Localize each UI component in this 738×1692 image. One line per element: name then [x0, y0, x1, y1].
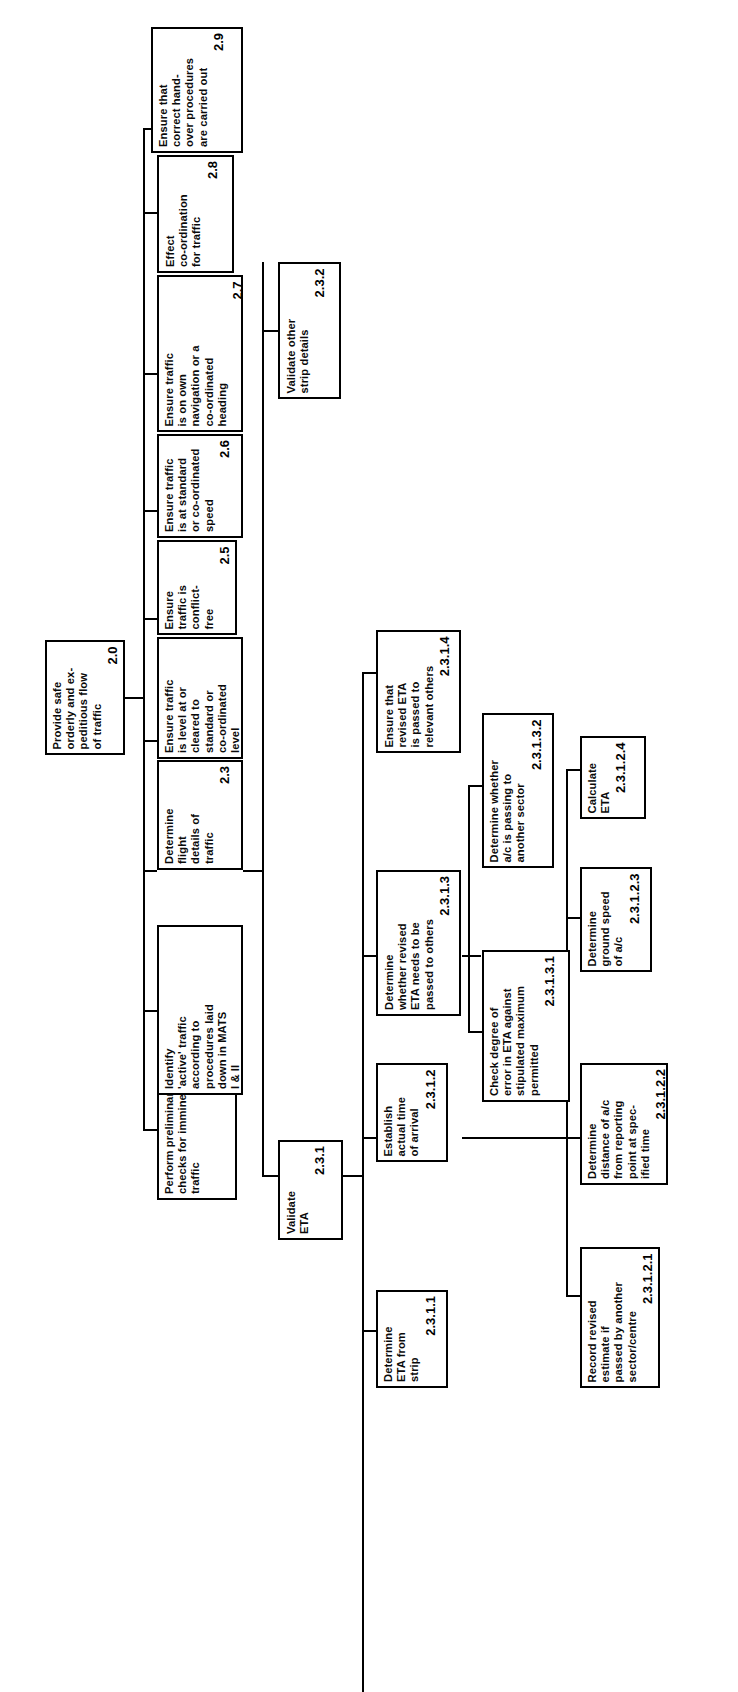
node-2.3.1-code: 2.3.1 [311, 1146, 326, 1234]
node-2.3.1.2.2-text: Determinedistance of a/cfrom reportingpo… [586, 1069, 652, 1179]
connector-2.3.1.2-2.3.1.2.2 [566, 1137, 580, 1139]
connector-2.3.1.3-spine [468, 785, 470, 1033]
connector-2.3.1.2-stub [462, 1137, 568, 1139]
node-2.3.1.2.1[interactable]: Record revisedestimate ifpassed by anoth… [580, 1247, 660, 1388]
node-2.3.1.3.1-code: 2.3.1.3.1 [542, 956, 557, 1096]
connector-2.0-2.4 [143, 740, 157, 742]
node-2.3.2-text: Validate otherstrip details [284, 268, 310, 393]
node-2.6-text: Ensure trafficis at standardor co-ordina… [163, 440, 216, 532]
node-2.9[interactable]: Ensure thatcorrect hand-over proceduresa… [151, 27, 243, 153]
node-2.8[interactable]: Effectco-ordinationfor traffic 2.8 [157, 155, 234, 273]
node-2.3.1.2.2[interactable]: Determinedistance of a/cfrom reportingpo… [580, 1063, 668, 1185]
node-2.3.1.3.1-text: Check degree oferror in ETA againststipu… [488, 956, 541, 1096]
node-2.3.1.2.1-text: Record revisedestimate ifpassed by anoth… [586, 1253, 639, 1382]
node-2.3.1.3-code: 2.3.1.3 [436, 876, 451, 1010]
node-2.3.1.3.1[interactable]: Check degree oferror in ETA againststipu… [482, 950, 570, 1102]
node-2.7-text: Ensure trafficis on ownnavigation or aco… [163, 281, 229, 426]
node-2.3-text: Determineflightdetails oftraffic [163, 766, 216, 864]
node-2.2[interactable]: Identify'active' trafficaccording toproc… [157, 925, 243, 1095]
node-2.0[interactable]: Provide safeorderly and ex-peditious flo… [45, 640, 125, 755]
connector-2.3-spine [262, 262, 264, 1177]
connector-2.3.1.3-2.3.1.3.2 [468, 785, 482, 787]
node-2.3.1[interactable]: ValidateETA 2.3.1 [278, 1140, 343, 1240]
connector-2.3-stub [243, 870, 264, 872]
connector-2.3.1-2.3.1.3 [362, 955, 376, 957]
node-2.3[interactable]: Determineflightdetails oftraffic 2.3 [157, 760, 243, 870]
node-2.3-code: 2.3 [217, 766, 232, 864]
node-2.3.1.2.4-text: CalculateETA [586, 742, 612, 813]
node-2.3.1.3.2-text: Determine whethera/c is passing toanothe… [488, 719, 528, 862]
node-2.7[interactable]: Ensure trafficis on ownnavigation or aco… [157, 275, 243, 432]
node-2.7-code: 2.7 [230, 281, 243, 426]
node-2.9-text: Ensure thatcorrect hand-over proceduresa… [157, 33, 210, 147]
node-2.3.1.2.4[interactable]: CalculateETA 2.3.1.2.4 [580, 736, 646, 819]
node-2.3.1.3-text: Determinewhether revisedETA needs to bep… [382, 876, 435, 1010]
node-2.3.1.1-text: DetermineETA fromstrip [382, 1296, 422, 1382]
node-2.0-code: 2.0 [105, 646, 120, 749]
node-2.3.1-text: ValidateETA [284, 1146, 310, 1234]
node-2.6-code: 2.6 [217, 440, 232, 532]
connector-2.0-2.5 [143, 618, 157, 620]
connector-2.0-2.1 [143, 1129, 157, 1131]
connector-2.0-stub [125, 697, 144, 699]
node-2.8-text: Effectco-ordinationfor traffic [163, 161, 203, 267]
connector-2.0-2.7 [143, 373, 157, 375]
node-2.9-code: 2.9 [211, 33, 226, 147]
node-2.4[interactable]: Ensure trafficis level at orcleared tost… [157, 637, 243, 759]
node-2.3.1.3.2-code: 2.3.1.3.2 [529, 719, 544, 862]
node-2.3.1.3.2[interactable]: Determine whethera/c is passing toanothe… [482, 713, 554, 868]
connector-2.3.1.2-2.3.1.2.4 [566, 769, 580, 771]
node-2.3.1.2[interactable]: Establishactual timeof arrival 2.3.1.2 [376, 1063, 448, 1162]
node-2.3.1.2.2-code: 2.3.1.2.2 [653, 1069, 668, 1179]
node-2.3.1.1[interactable]: DetermineETA fromstrip 2.3.1.1 [376, 1290, 448, 1388]
connector-2.3-2.3.1 [262, 1175, 278, 1177]
node-2.2-text: Identify'active' trafficaccording toproc… [163, 931, 242, 1089]
connector-2.0-2.3 [143, 870, 157, 872]
node-2.3.1.1-code: 2.3.1.1 [423, 1296, 438, 1382]
node-2.6[interactable]: Ensure trafficis at standardor co-ordina… [157, 434, 243, 538]
node-2.3.1.2.3-text: Determineground speedof a/c [586, 873, 626, 966]
connector-2.0-2.2 [143, 1010, 157, 1012]
node-2.4-text: Ensure trafficis level at orcleared tost… [163, 643, 242, 753]
connector-2.3.1-2.3.1.2 [362, 1137, 376, 1139]
node-2.3.2[interactable]: Validate otherstrip details 2.3.2 [278, 262, 341, 399]
connector-2.0-2.8 [143, 212, 157, 214]
node-2.8-code: 2.8 [204, 161, 219, 267]
connector-2.3.1-stub [343, 1175, 364, 1177]
connector-2.3-2.3.2 [262, 330, 278, 332]
node-2.3.1.4-text: Ensure thatrevised ETAis passed toreleva… [382, 636, 435, 747]
node-2.5[interactable]: Ensuretraffic isconflict-free 2.5 [157, 540, 237, 635]
connector-2.3.1.2-2.3.1.2.3 [566, 917, 580, 919]
connector-2.3.1.3-stub [462, 955, 481, 957]
node-2.3.1.2.1-code: 2.3.1.2.1 [640, 1253, 655, 1382]
node-2.3.1.4-code: 2.3.1.4 [436, 636, 451, 747]
connector-2.3.1-2.3.1.1 [362, 1330, 376, 1332]
node-2.3.1.2.4-code: 2.3.1.2.4 [613, 742, 628, 813]
node-2.5-text: Ensuretraffic isconflict-free [163, 546, 216, 629]
connector-2.3.1-spine [362, 672, 364, 1692]
node-2.5-code: 2.5 [217, 546, 232, 629]
node-2.3.2-code: 2.3.2 [311, 268, 326, 393]
connector-2.3.1.2-2.3.1.2.1 [566, 1295, 580, 1297]
connector-2.3.1-2.3.1.4 [362, 672, 376, 674]
connector-2.0-2.6 [143, 510, 157, 512]
node-2.3.1.2.3[interactable]: Determineground speedof a/c 2.3.1.2.3 [580, 867, 652, 972]
node-2.3.1.2-code: 2.3.1.2 [423, 1069, 438, 1156]
node-2.0-text: Provide safeorderly and ex-peditious flo… [51, 646, 104, 749]
connector-2.3.1.3-2.3.1.3.1 [468, 1031, 482, 1033]
node-2.3.1.2.3-code: 2.3.1.2.3 [627, 873, 642, 966]
node-2.3.1.3[interactable]: Determinewhether revisedETA needs to bep… [376, 870, 461, 1016]
connector-2.0-spine [143, 128, 145, 1131]
node-2.3.1.4[interactable]: Ensure thatrevised ETAis passed toreleva… [376, 630, 461, 753]
node-2.3.1.2-text: Establishactual timeof arrival [382, 1069, 422, 1156]
